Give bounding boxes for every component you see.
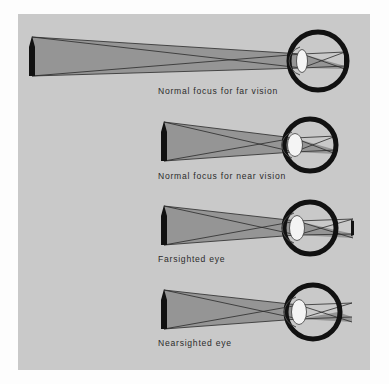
retinal-image-inverted <box>334 137 336 153</box>
caption-normal-near: Normal focus for near vision <box>158 171 286 181</box>
diagram-normal-near <box>161 119 336 171</box>
diagram-normal-far <box>29 32 347 90</box>
ray-bundle-upper-shaded <box>32 37 302 76</box>
diagram-panel <box>18 14 370 370</box>
caption-nearsighted: Nearsighted eye <box>158 338 232 348</box>
diagram-farsighted <box>161 202 354 254</box>
lens <box>297 50 308 73</box>
lens <box>288 134 303 157</box>
caption-normal-far: Normal focus for far vision <box>158 86 278 96</box>
lens <box>290 216 305 241</box>
ray-bundle-upper-shaded <box>164 206 297 245</box>
figure-root: Normal focus for far vision Normal focus… <box>0 0 389 384</box>
diagram-nearsighted <box>161 285 352 339</box>
eye-optics-svg <box>18 14 370 370</box>
retinal-image-inverted <box>351 220 354 236</box>
lens <box>292 300 307 325</box>
retinal-image-inverted <box>344 52 347 69</box>
ray-bundle-upper-shaded <box>164 290 299 329</box>
caption-farsighted: Farsighted eye <box>158 254 225 264</box>
